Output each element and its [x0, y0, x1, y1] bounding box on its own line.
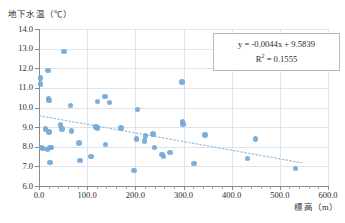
- x-axis-tick-label: 600.0: [308, 191, 345, 200]
- y-axis-tick-label: 14.0: [3, 25, 33, 34]
- data-point: [179, 79, 184, 84]
- y-axis-tick: [35, 29, 39, 30]
- x-axis-tick-minor: [174, 186, 175, 189]
- x-axis-tick-label: 100.0: [67, 191, 107, 200]
- x-axis-tick-minor: [78, 186, 79, 189]
- y-axis-title: 地下水温（℃）: [8, 7, 72, 19]
- data-point: [180, 121, 185, 126]
- x-axis-tick-minor: [309, 186, 310, 189]
- x-axis-tick-minor: [203, 186, 204, 189]
- y-axis-tick-label: 6.0: [3, 182, 33, 191]
- data-point: [143, 133, 148, 138]
- x-axis-tick-minor: [193, 186, 194, 189]
- x-axis-tick-minor: [126, 186, 127, 189]
- data-point: [59, 126, 64, 131]
- x-axis-tick-minor: [97, 186, 98, 189]
- x-axis-tick-minor: [58, 186, 59, 189]
- r-squared-number: = 0.1555: [267, 54, 298, 64]
- data-point: [61, 49, 66, 54]
- data-point: [77, 158, 82, 163]
- x-axis-tick-minor: [289, 186, 290, 189]
- r-squared-value: R2 = 0.1555: [217, 50, 336, 65]
- x-axis-tick-minor: [155, 186, 156, 189]
- x-axis-tick-minor: [106, 186, 107, 189]
- data-point: [46, 129, 51, 134]
- y-axis-tick-label: 13.0: [3, 44, 33, 53]
- x-axis-tick-minor: [251, 186, 252, 189]
- y-axis-tick: [35, 166, 39, 167]
- x-axis-tick-label: 200.0: [115, 191, 155, 200]
- data-point: [45, 68, 50, 73]
- x-axis-tick-minor: [116, 186, 117, 189]
- data-point: [202, 132, 207, 137]
- data-point: [47, 160, 52, 165]
- data-point: [118, 125, 123, 130]
- y-axis-tick-label: 7.0: [3, 162, 33, 171]
- x-axis-title: 標高（m）: [294, 200, 338, 212]
- x-axis-tick-minor: [212, 186, 213, 189]
- x-axis-tick-minor: [68, 186, 69, 189]
- x-axis-tick-minor: [261, 186, 262, 189]
- x-axis-tick-label: 300.0: [164, 191, 204, 200]
- data-point: [150, 131, 155, 136]
- y-axis-tick-label: 8.0: [3, 142, 33, 151]
- data-point: [76, 140, 81, 145]
- y-axis-tick-label: 9.0: [3, 123, 33, 132]
- y-axis-tick: [35, 49, 39, 50]
- data-point: [167, 150, 172, 155]
- x-axis-tick-minor: [222, 186, 223, 189]
- x-axis-tick-minor: [299, 186, 300, 189]
- y-axis-tick: [35, 88, 39, 89]
- y-axis-tick: [35, 127, 39, 128]
- data-point: [38, 81, 43, 86]
- trendline-equation-box: y = -0.0044x + 9.5839 R2 = 0.1555: [213, 33, 340, 71]
- data-point: [38, 75, 43, 80]
- data-point: [95, 125, 100, 130]
- x-axis-tick-minor: [49, 186, 50, 189]
- x-axis-tick-label: 0.0: [19, 191, 59, 200]
- x-axis-tick-label: 500.0: [260, 191, 300, 200]
- scatter-chart: 地下水温（℃） 標高（m） 6.07.08.09.010.011.012.013…: [0, 0, 345, 223]
- y-axis-tick-label: 10.0: [3, 103, 33, 112]
- y-axis-tick-label: 11.0: [3, 83, 33, 92]
- y-axis-tick-label: 12.0: [3, 64, 33, 73]
- x-axis-tick-minor: [164, 186, 165, 189]
- y-axis-tick: [35, 68, 39, 69]
- data-point: [191, 161, 196, 166]
- data-point: [88, 154, 93, 159]
- x-axis-tick-minor: [241, 186, 242, 189]
- data-point: [142, 138, 147, 143]
- y-axis-tick: [35, 108, 39, 109]
- x-axis-tick-minor: [270, 186, 271, 189]
- data-point: [134, 136, 139, 141]
- x-axis-tick-label: 400.0: [212, 191, 252, 200]
- x-axis-tick-minor: [145, 186, 146, 189]
- data-point: [131, 168, 136, 173]
- regression-equation: y = -0.0044x + 9.5839: [217, 38, 336, 50]
- y-axis-tick: [35, 147, 39, 148]
- r-squared-exponent: 2: [261, 53, 264, 59]
- data-point: [253, 136, 258, 141]
- x-axis-tick-minor: [318, 186, 319, 189]
